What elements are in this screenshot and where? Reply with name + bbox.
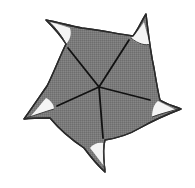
pinwheel-svg <box>0 0 195 188</box>
pinwheel-figure <box>0 0 195 188</box>
